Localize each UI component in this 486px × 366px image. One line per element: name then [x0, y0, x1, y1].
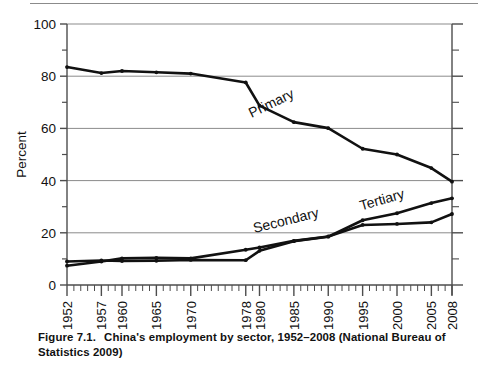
data-point-tertiary-1957: [99, 259, 103, 263]
data-point-tertiary-2000: [395, 211, 399, 215]
x-tick-label-1957: 1957: [94, 301, 109, 330]
data-point-tertiary-1985: [292, 239, 296, 243]
x-tick-label-1985: 1985: [287, 301, 302, 330]
data-point-secondary-1952: [65, 264, 69, 268]
data-point-tertiary-2005: [429, 201, 433, 205]
x-tick-label-2005: 2005: [424, 301, 439, 330]
data-point-primary-1960: [120, 69, 124, 73]
y-tick-label-80: 80: [41, 69, 56, 84]
data-point-primary-2005: [429, 166, 433, 170]
data-point-secondary-2000: [395, 222, 399, 226]
series-label-secondary: Secondary: [251, 204, 320, 236]
series-line-primary: [67, 67, 452, 182]
x-tick-label-1980: 1980: [253, 301, 268, 330]
x-tick-label-1990: 1990: [321, 301, 336, 330]
y-tick-label-100: 100: [33, 17, 56, 32]
data-point-primary-1978: [244, 81, 248, 85]
data-point-primary-2000: [395, 153, 399, 157]
data-point-primary-1957: [99, 71, 103, 75]
figure-caption: Figure 7.1.China's employment by sector,…: [38, 330, 458, 359]
data-point-secondary-1995: [361, 223, 365, 227]
y-tick-label-20: 20: [41, 226, 56, 241]
x-axis: 1952195719601965197019781980198519901995…: [60, 285, 460, 330]
x-tick-label-2008: 2008: [445, 301, 460, 330]
y-axis: 020406080100: [33, 17, 67, 293]
data-point-tertiary-1980: [258, 249, 262, 253]
data-point-secondary-1978: [244, 248, 248, 252]
data-point-tertiary-1960: [120, 259, 124, 263]
data-point-tertiary-1952: [65, 260, 69, 264]
x-tick-label-1970: 1970: [184, 301, 199, 330]
y-tick-label-40: 40: [41, 174, 56, 189]
y-axis-title: Percent: [14, 131, 29, 178]
data-series-group: [65, 65, 454, 267]
series-inline-labels: PrimarySecondaryTertiary: [246, 85, 406, 236]
right-axis: [452, 24, 463, 295]
x-tick-label-1965: 1965: [149, 301, 164, 330]
x-tick-label-1952: 1952: [60, 301, 75, 330]
x-tick-label-2000: 2000: [390, 301, 405, 330]
data-point-tertiary-1995: [361, 218, 365, 222]
x-tick-label-1960: 1960: [115, 301, 130, 330]
figure-container: 020406080100 195219571960196519701978198…: [0, 0, 486, 366]
data-point-primary-1952: [65, 65, 69, 69]
data-point-tertiary-1990: [326, 235, 330, 239]
data-point-primary-1990: [326, 126, 330, 130]
y-axis-label: Percent: [14, 131, 29, 178]
data-point-secondary-2008: [450, 212, 454, 216]
caption-figure-number: Figure 7.1.: [38, 331, 96, 343]
data-point-primary-1985: [292, 120, 296, 124]
x-tick-label-1978: 1978: [239, 301, 254, 330]
data-point-tertiary-1970: [189, 258, 193, 262]
data-point-tertiary-2008: [450, 196, 454, 200]
y-tick-label-0: 0: [48, 278, 56, 293]
data-point-secondary-1980: [258, 246, 262, 250]
data-point-primary-1995: [361, 147, 365, 151]
caption-text: China's employment by sector, 1952–2008 …: [38, 331, 446, 358]
data-point-primary-1970: [189, 72, 193, 76]
data-point-primary-2008: [450, 180, 454, 184]
series-label-tertiary: Tertiary: [358, 185, 407, 213]
x-tick-label-1995: 1995: [356, 301, 371, 330]
data-point-tertiary-1978: [244, 258, 248, 262]
data-point-secondary-2005: [429, 220, 433, 224]
data-point-primary-1965: [154, 70, 158, 74]
data-point-tertiary-1965: [154, 259, 158, 263]
y-tick-label-60: 60: [41, 121, 56, 136]
chart-plot-area: 020406080100 195219571960196519701978198…: [0, 0, 486, 330]
series-label-primary: Primary: [246, 85, 296, 121]
